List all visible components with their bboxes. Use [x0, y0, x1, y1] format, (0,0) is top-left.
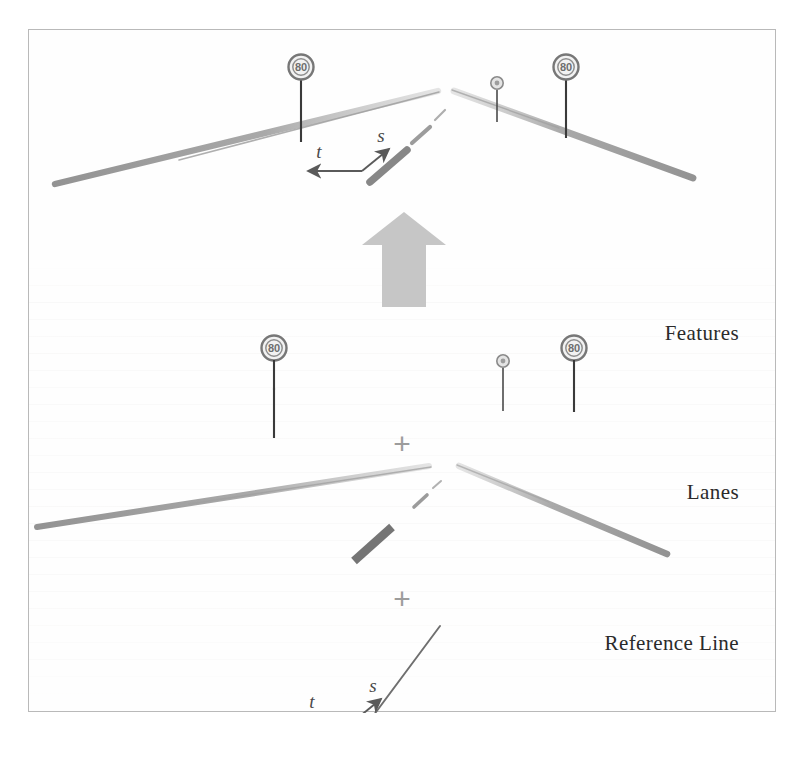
plus-symbol: + [393, 427, 411, 460]
reference-line-stroke [353, 626, 440, 713]
layer-features: 80 80 [262, 336, 587, 439]
lanes-right-outer [459, 466, 667, 554]
sign-face-inner [495, 81, 500, 86]
axis-s-label: s [377, 125, 384, 146]
layer-label-features: Features [665, 321, 739, 346]
lanes-left-inner [189, 467, 431, 504]
axis-t-label: t [316, 141, 322, 162]
composite-lane-left-inner [179, 92, 439, 160]
road-model-diagram: 80 80 s t [29, 30, 777, 713]
composition-arrow [362, 212, 446, 307]
sign-face-inner [501, 359, 506, 364]
sign-top-mid [491, 77, 503, 122]
layer-label-reference-line: Reference Line [605, 631, 739, 656]
composite-lane-center-dash-mid [412, 127, 430, 143]
sign-feat-mid [497, 355, 509, 411]
sign-value: 80 [295, 61, 307, 73]
plus-operator-2: + [393, 582, 411, 615]
sign-value: 80 [268, 342, 280, 354]
axes-top: s t [308, 125, 389, 171]
plus-operator-1: + [393, 427, 411, 460]
figure-page: 80 80 s t [0, 0, 804, 771]
axis-s-label: s [369, 675, 376, 696]
layer-reference-line: s t [301, 626, 440, 713]
composite-lane-center-dash-far [435, 110, 445, 120]
sign-value: 80 [568, 342, 580, 354]
figure-frame: 80 80 s t [28, 29, 776, 712]
lanes-center-dash-far [433, 481, 441, 488]
layer-lanes [37, 465, 667, 561]
sign-feat-left: 80 [262, 336, 287, 439]
composite-lane-right-inner [452, 90, 559, 128]
composite-lane-center-dash-near [370, 150, 407, 182]
lanes-center-dash-mid [414, 495, 427, 507]
axes-bottom: s t [301, 675, 381, 713]
layer-label-lanes: Lanes [687, 480, 739, 505]
layer-composite: 80 80 s t [55, 55, 693, 185]
axis-t-label: t [309, 691, 315, 712]
sign-value: 80 [560, 61, 572, 73]
lanes-left-outer [37, 466, 429, 527]
plus-symbol: + [393, 582, 411, 615]
arrow-up-icon [362, 212, 446, 307]
lanes-center-dash-near [354, 527, 392, 561]
lanes-right-inner [457, 465, 549, 502]
sign-feat-right: 80 [562, 336, 587, 413]
